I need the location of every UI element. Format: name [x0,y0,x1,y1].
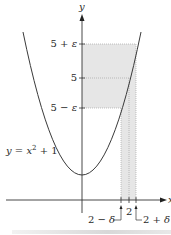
x-tick-2-minus-delta: 2 − δ [88,214,115,225]
x-tick-2-plus-delta-pointer [136,208,142,220]
y-axis-arrow-icon [80,14,85,21]
y-tick-5: 5 [71,72,77,83]
y-tick-5-minus-epsilon: 5 − ε [51,102,77,113]
x-axis-arrow-icon [160,198,167,203]
epsilon-delta-diagram: y x 5 + ε 5 5 − ε 2 2 − δ 2 + δ y = x2 +… [0,0,171,235]
y-axis-label: y [78,1,85,12]
curve-label: y = x2 + 1 [5,144,58,156]
delta-band [121,44,136,200]
page-edge-shadow [12,230,171,234]
pointer-arrow-icon [135,205,138,209]
x-tick-2-plus-delta: 2 + δ [143,214,170,225]
x-axis-label: x [168,194,171,205]
y-tick-5-plus-epsilon: 5 + ε [51,38,77,49]
pointer-arrow-icon [120,205,123,209]
x-tick-2: 2 [126,206,132,217]
